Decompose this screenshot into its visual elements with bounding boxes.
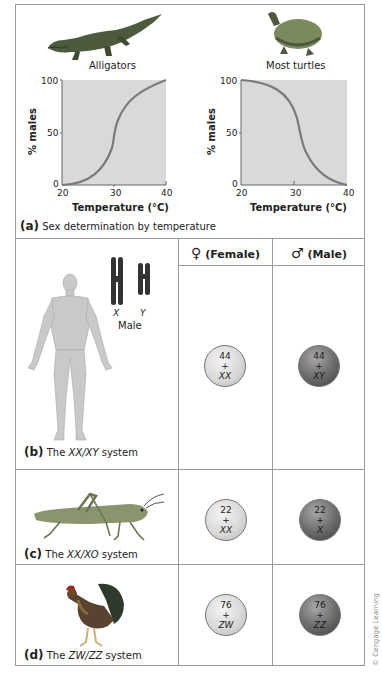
- caption-c: (c) The XX/XO system: [24, 547, 138, 561]
- sex-chromosomes: X: [317, 525, 323, 535]
- alligators-label: Alligators: [89, 60, 136, 71]
- turtle-xtick-40: 40: [343, 188, 354, 198]
- male-karyotype-d: 76 + ZZ: [299, 594, 341, 636]
- alligator-ylabel: % males: [27, 102, 38, 162]
- male-label: (Male): [307, 248, 347, 261]
- plus: +: [222, 515, 230, 525]
- caption-d-suffix: system: [102, 650, 141, 661]
- autosomes: 44: [219, 351, 230, 361]
- autosomes: 22: [314, 505, 325, 515]
- autosomes: 76: [314, 600, 325, 610]
- chromosome-x-label: X: [113, 308, 119, 318]
- female-karyotype-c: 22 + XX: [205, 499, 247, 541]
- caption-c-prefix: The: [45, 549, 67, 560]
- header-female: ♀ (Female): [179, 245, 272, 261]
- turtle-ylabel: % males: [206, 102, 217, 162]
- female-karyotype-b: 44 + XX: [204, 345, 246, 387]
- sex-chromosomes: XX: [219, 371, 231, 381]
- plus: +: [315, 361, 323, 371]
- grasshopper-illustration: [30, 492, 165, 547]
- caption-b-letter: (b): [24, 445, 44, 459]
- alligator-xtick-30: 30: [110, 188, 121, 198]
- turtle-ytick-50: 50: [226, 128, 237, 138]
- alligator-xlabel: Temperature (°C): [72, 202, 169, 213]
- autosomes: 76: [220, 600, 231, 610]
- alligator-ytick-50: 50: [47, 128, 58, 138]
- human-male-illustration: [24, 270, 116, 445]
- caption-b: (b) The XX/XY system: [24, 445, 138, 459]
- male-karyotype-b: 44 + XY: [298, 345, 340, 387]
- turtle-chart: [239, 78, 351, 190]
- sex-chromosomes: XY: [313, 371, 325, 381]
- caption-c-letter: (c): [24, 547, 42, 561]
- plus: +: [316, 610, 324, 620]
- sex-chromosomes: XX: [220, 525, 232, 535]
- turtle-xtick-30: 30: [290, 188, 301, 198]
- caption-d-system: ZW/ZZ: [69, 650, 103, 661]
- caption-d: (d) The ZW/ZZ system: [24, 648, 142, 662]
- caption-b-prefix: The: [47, 447, 69, 458]
- alligator-xtick-40: 40: [161, 188, 172, 198]
- row-divider-1: [15, 469, 365, 470]
- row-divider-2: [15, 564, 365, 565]
- rooster-illustration: [58, 580, 130, 652]
- sex-chromosomes: ZZ: [314, 620, 326, 630]
- caption-a-letter: (a): [20, 219, 39, 233]
- caption-a: (a) Sex determination by temperature: [20, 219, 216, 233]
- female-symbol-icon: ♀: [191, 245, 201, 261]
- caption-c-suffix: system: [99, 549, 138, 560]
- caption-d-letter: (d): [24, 648, 44, 662]
- turtle-xlabel: Temperature (°C): [250, 202, 347, 213]
- turtle-illustration: [262, 8, 324, 58]
- caption-a-text: Sex determination by temperature: [42, 221, 216, 232]
- caption-b-suffix: system: [99, 447, 138, 458]
- plus: +: [221, 361, 229, 371]
- plus: +: [222, 610, 230, 620]
- header-divider: [178, 265, 365, 266]
- male-karyotype-c: 22 + X: [299, 499, 341, 541]
- caption-c-system: XX/XO: [67, 549, 98, 560]
- caption-b-system: XX/XY: [69, 447, 99, 458]
- turtles-label: Most turtles: [266, 60, 326, 71]
- chromosome-x-icon: [110, 256, 124, 306]
- female-karyotype-d: 76 + ZW: [205, 594, 247, 636]
- chromosome-caption: Male: [118, 320, 142, 331]
- header-male: ♂ (Male): [273, 245, 365, 261]
- autosomes: 44: [313, 351, 324, 361]
- plus: +: [316, 515, 324, 525]
- male-symbol-icon: ♂: [291, 245, 304, 261]
- autosomes: 22: [220, 505, 231, 515]
- copyright-credit: © Cengage Learning: [372, 593, 380, 666]
- column-divider-1: [178, 238, 179, 666]
- turtle-ytick-100: 100: [220, 76, 237, 86]
- column-divider-2: [272, 238, 273, 666]
- alligator-xtick-20: 20: [57, 188, 68, 198]
- caption-d-prefix: The: [47, 650, 69, 661]
- chromosome-y-icon: [137, 262, 151, 296]
- alligator-ytick-100: 100: [41, 76, 58, 86]
- alligator-chart: [60, 78, 170, 190]
- sex-chromosomes: ZW: [218, 620, 233, 630]
- turtle-xtick-20: 20: [236, 188, 247, 198]
- chromosome-y-label: Y: [140, 308, 146, 318]
- alligator-illustration: [46, 10, 164, 62]
- female-label: (Female): [205, 248, 260, 261]
